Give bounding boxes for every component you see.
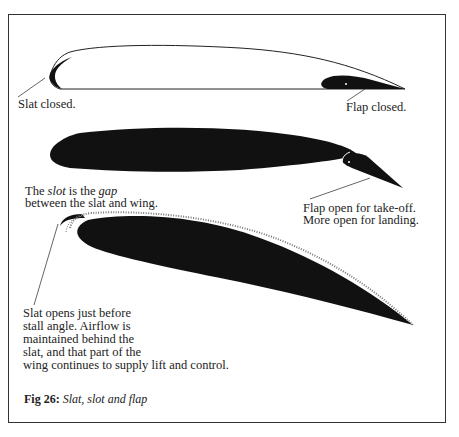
flap-open-label-line2: More open for landing. [303,214,419,227]
slat-closed-label: Slat closed. [18,98,76,111]
slat-open-label-line5: wing continues to supply lift and contro… [23,359,229,372]
figure-number: Fig 26: [24,392,60,406]
figure-caption: Fig 26: Slat, slot and flap [24,392,147,407]
flap-closed-label: Flap closed. [346,101,406,114]
wing-closed [18,45,405,101]
slot-gap-label-line2: between the slat and wing. [25,197,158,210]
figure-title: Slat, slot and flap [63,392,148,406]
